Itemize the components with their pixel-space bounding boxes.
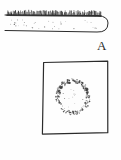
blade-with-fringed-margin [5,10,108,32]
rim-granule [81,84,83,86]
interior-dot [64,98,65,99]
rim-granule [80,110,81,111]
rim-granule [58,97,59,98]
stipple-dot [24,22,25,23]
bristle [83,13,84,16]
stipple-dot [52,28,53,29]
rim-granule [68,79,70,81]
bristle [41,11,42,15]
rim-stroke [58,96,59,97]
rim-granule [56,91,57,92]
interior-dot [69,98,70,99]
fringe-base-band [7,15,101,16]
panel-label-a: A [97,39,106,52]
rim-granule [85,84,86,85]
rim-granule [76,79,78,81]
rim-granule [57,94,58,95]
rim-granule [62,109,63,110]
rim-granule [56,99,57,100]
blade-outline [5,15,108,32]
rim-granule [86,100,87,101]
stipple-dot [96,28,97,29]
rim-granule [83,87,85,89]
rim-granule [86,103,87,104]
rim-granule [64,110,65,111]
rim-granule [62,105,63,106]
rim-granule [63,111,65,113]
rim-granule [69,82,71,84]
stipple-dot [65,21,66,22]
rim-granule [59,100,60,101]
rim-granule [74,111,76,113]
stipple-dot [14,24,15,25]
rim-granule [79,113,80,114]
rim-granule [72,111,74,113]
interior-dot [73,90,74,91]
interior-dot [75,94,76,95]
stipple-dot [87,22,88,23]
stipple-dot [54,26,55,27]
rim-granule [66,112,67,113]
stipple-dot [38,28,39,29]
rim-granule [89,101,91,103]
rim-granule [71,112,72,113]
stipple-dot [35,22,36,23]
rim-granule [89,96,90,97]
stipple-dot [11,20,12,21]
bristle [62,11,63,15]
rim-stroke [65,84,66,85]
rim-granule [77,83,78,84]
rim-granule [58,102,60,104]
interior-dot [72,97,73,98]
rim-granule [82,109,84,111]
rim-granule [70,114,71,115]
stipple-dot [18,26,19,27]
stipple-dot [34,23,35,24]
ovoid-in-square-frame [42,61,107,134]
rim-granule [56,93,57,94]
rim-granule [86,95,87,96]
stipple-dot [48,21,49,22]
figure-root: A B [0,0,121,160]
rim-granule [89,100,90,101]
rim-granule [86,95,87,96]
interior-dot [63,93,64,94]
stipple-dot [44,26,45,27]
rim-granule [70,112,71,113]
stipple-dot [14,22,15,23]
rim-granule [85,104,86,105]
rim-stroke [58,91,59,92]
rim-granule [64,108,65,109]
interior-dot [68,107,69,108]
interior-dot [75,103,76,104]
rim-granule [61,108,63,110]
rim-stroke [60,88,61,89]
rim-granule [73,113,75,115]
interior-dot [74,95,75,96]
stipple-dot [58,28,59,29]
rim-granule [87,105,89,107]
panel-b: B [0,56,121,160]
rim-granule [87,100,88,101]
rim-granule [75,113,76,114]
rim-granule [77,111,79,113]
panel-a: A [0,0,121,58]
rim-granule [86,97,88,99]
interior-dot [74,93,75,94]
rim-granule [76,113,77,114]
stipple-dot [60,21,61,22]
interior-dot [82,99,83,100]
stipple-dot [24,25,25,26]
stipple-dot [26,25,27,26]
stipple-dot [15,25,16,26]
stipple-dot [32,27,33,28]
rim-granule [83,105,84,106]
rim-granule [59,96,60,97]
rim-granule [83,106,84,107]
rim-granule [84,90,85,91]
stipple-dot [61,23,62,24]
rim-granule [55,96,57,98]
rim-granule [71,113,72,114]
rim-granule [82,84,83,85]
bristle [18,11,19,15]
